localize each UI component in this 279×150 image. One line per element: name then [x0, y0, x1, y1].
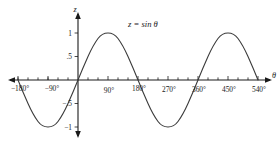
x-axis-label: θ — [272, 71, 276, 80]
x-tick-label-90: 90° — [104, 86, 114, 95]
x-tick-label-neg90: −90° — [45, 84, 60, 93]
y-tick-label-neg-half: −.5 — [62, 99, 72, 108]
x-tick-label-450: 450° — [222, 85, 236, 94]
x-tick-label-270: 270° — [162, 85, 176, 94]
sine-graph-figure: −180° −90° 90° 180° 270° 360° 450° 540° … — [0, 0, 279, 150]
y-tick-label-half: .5 — [66, 52, 72, 61]
x-axis-right-arrow-icon — [265, 77, 272, 83]
y-axis-label: z — [72, 5, 77, 14]
y-axis-down-arrow-icon — [75, 131, 81, 138]
x-tick-label-neg180: −180° — [11, 84, 29, 93]
x-tick-label-360: 360° — [192, 85, 206, 94]
x-tick-label-180: 180° — [132, 84, 146, 93]
plot-area: −180° −90° 90° 180° 270° 360° 450° 540° … — [0, 0, 279, 150]
x-axis-left-arrow-icon — [8, 77, 15, 83]
x-tick-label-540: 540° — [252, 85, 266, 94]
y-tick-label-neg1: −1 — [64, 123, 72, 132]
equation-annotation: z = sin θ — [127, 19, 159, 29]
y-tick-label-1: 1 — [68, 29, 72, 38]
